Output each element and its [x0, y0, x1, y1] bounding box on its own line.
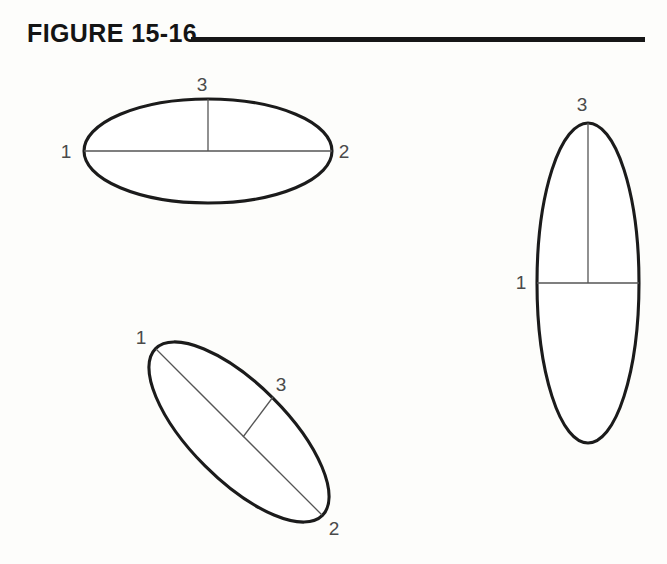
tilted-ellipse-label-2: 2 [329, 518, 340, 539]
vertical-ellipse-label-1: 1 [516, 272, 527, 293]
tilted-ellipse-label-1: 1 [136, 327, 147, 348]
vertical-ellipse-diagram: 1 3 [516, 94, 639, 443]
vertical-ellipse-label-3: 3 [577, 94, 588, 115]
figure-page: FIGURE 15-16 1 2 3 1 2 3 1 3 [0, 0, 667, 564]
horizontal-ellipse-label-2: 2 [339, 141, 350, 162]
horizontal-ellipse-diagram: 1 2 3 [61, 74, 350, 203]
figure-diagram-canvas: 1 2 3 1 2 3 1 3 [0, 0, 667, 564]
horizontal-ellipse-label-3: 3 [197, 74, 208, 95]
tilted-ellipse-label-3: 3 [276, 374, 287, 395]
tilted-ellipse-diagram: 1 2 3 [122, 315, 357, 550]
horizontal-ellipse-label-1: 1 [61, 141, 72, 162]
